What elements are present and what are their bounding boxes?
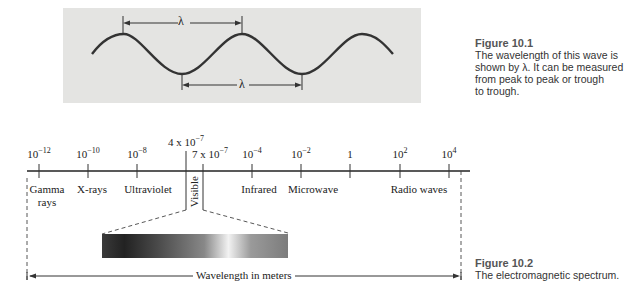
band-label-microwave: Microwave (288, 183, 338, 196)
caption-line: shown by λ. It can be measured (475, 61, 625, 73)
lambda-label-top: λ (178, 14, 184, 29)
tick-label: 1 (347, 146, 353, 160)
tick-label: 104 (442, 146, 457, 160)
visible-end-label: 7 x 10−7 (192, 146, 228, 160)
figure-10-1-title: Figure 10.1 (475, 37, 625, 49)
band-label-infrared: Infrared (241, 183, 276, 196)
band-label-ultraviolet: Ultraviolet (124, 183, 172, 196)
caption-line: from peak to peak or trough (475, 73, 625, 85)
tick-label: 102 (393, 146, 408, 160)
band-label-radio: Radio waves (391, 183, 448, 196)
visible-spectrum-bar (102, 234, 288, 258)
axis-label: Wavelength in meters (193, 269, 295, 281)
figure-10-1-caption: Figure 10.1 The wavelength of this wave … (475, 37, 625, 97)
wave-curve (92, 34, 393, 74)
tick-label: 10−2 (291, 146, 311, 160)
tick-label: 10−4 (242, 146, 262, 160)
band-label-gamma: Gammarays (30, 183, 65, 209)
caption-line: The wavelength of this wave is (475, 49, 625, 61)
tick-label: 10−12 (27, 146, 51, 160)
lambda-label-bottom: λ (239, 77, 245, 92)
caption-text: The electromagnetic spectrum. (475, 269, 625, 281)
figure-10-2-caption: Figure 10.2 The electromagnetic spectrum… (475, 257, 625, 281)
tick-label: 10−8 (127, 146, 147, 160)
caption-line: to trough. (475, 85, 625, 97)
tick-label: 10−10 (76, 146, 100, 160)
band-label-xrays: X-rays (77, 183, 107, 196)
figure-10-2-title: Figure 10.2 (475, 257, 625, 269)
band-label-visible: Visible (188, 176, 200, 207)
